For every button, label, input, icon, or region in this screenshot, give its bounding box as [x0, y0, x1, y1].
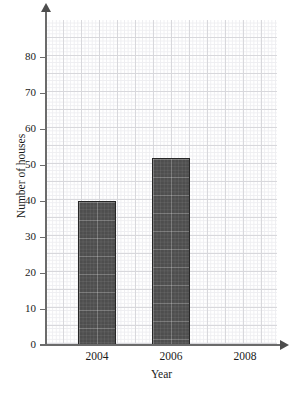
y-tick-label-0: 0 — [0, 339, 36, 350]
bar-2004 — [78, 201, 116, 345]
y-tick-mark — [40, 129, 46, 130]
y-tick-label-10: 10 — [0, 303, 36, 314]
bar-chart: 80 70 60 50 40 30 20 10 0 2004 2006 2008… — [0, 0, 299, 393]
y-tick-mark — [40, 273, 46, 274]
y-tick-mark — [40, 57, 46, 58]
y-tick-mark — [40, 237, 46, 238]
y-axis-title: Number of houses — [15, 106, 27, 246]
y-tick-label-70: 70 — [0, 87, 36, 98]
y-tick-mark — [40, 309, 46, 310]
y-axis-line — [45, 10, 47, 346]
x-axis-title: Year — [46, 368, 277, 381]
y-tick-mark — [40, 93, 46, 94]
y-tick-label-80: 80 — [0, 51, 36, 62]
x-axis-arrow-icon — [280, 340, 289, 350]
x-tick-label-2008: 2008 — [215, 350, 275, 363]
y-tick-mark — [40, 165, 46, 166]
x-tick-label-2004: 2004 — [67, 350, 127, 363]
y-axis-arrow-icon — [41, 3, 51, 12]
x-tick-label-2006: 2006 — [141, 350, 201, 363]
bar-2006 — [152, 158, 190, 345]
y-tick-label-20: 20 — [0, 267, 36, 278]
y-tick-mark — [40, 201, 46, 202]
y-tick-mark — [40, 345, 46, 346]
x-axis-line — [40, 344, 282, 346]
